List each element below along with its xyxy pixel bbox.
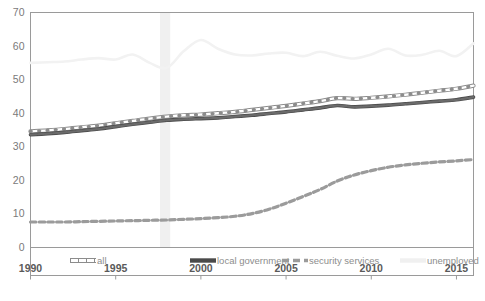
y-tick-label: 0 bbox=[19, 241, 25, 253]
series-line-dashed bbox=[31, 160, 474, 222]
series-security-services bbox=[31, 160, 474, 222]
legend-label: all bbox=[97, 255, 107, 266]
legend: alllocal governmentsecurity servicesunem… bbox=[70, 255, 479, 266]
y-axis-tick-labels: 010203040506070 bbox=[13, 6, 25, 253]
y-tick-label: 60 bbox=[13, 40, 25, 52]
line-chart: 010203040506070 199019952000200520102015… bbox=[0, 0, 485, 301]
y-tick-label: 10 bbox=[13, 207, 25, 219]
legend-item-unemployed[interactable]: unemployed bbox=[400, 255, 479, 266]
highlight-band bbox=[160, 13, 170, 248]
series-local-government bbox=[31, 97, 474, 135]
y-tick-label: 30 bbox=[13, 140, 25, 152]
plot-frame-rect bbox=[31, 13, 474, 276]
y-tick-label: 40 bbox=[13, 107, 25, 119]
plot-frame bbox=[31, 13, 474, 276]
y-tick-label: 50 bbox=[13, 73, 25, 85]
series-unemployed bbox=[31, 40, 474, 68]
x-tick-label: 1995 bbox=[104, 262, 128, 274]
x-tick-label: 2000 bbox=[189, 262, 213, 274]
legend-label: local government bbox=[217, 255, 290, 266]
series-line-light bbox=[31, 40, 474, 68]
legend-label: unemployed bbox=[427, 255, 479, 266]
series-line-fill bbox=[31, 97, 474, 135]
y-tick-label: 70 bbox=[13, 6, 25, 18]
x-axis-tick-marks bbox=[31, 276, 457, 280]
legend-label: security services bbox=[309, 255, 379, 266]
chart-container: 010203040506070 199019952000200520102015… bbox=[0, 0, 485, 301]
series-all bbox=[31, 86, 474, 132]
highlight-band-group bbox=[160, 13, 170, 248]
y-tick-label: 20 bbox=[13, 174, 25, 186]
legend-item-all[interactable]: all bbox=[70, 255, 107, 266]
data-series-group bbox=[31, 40, 474, 222]
